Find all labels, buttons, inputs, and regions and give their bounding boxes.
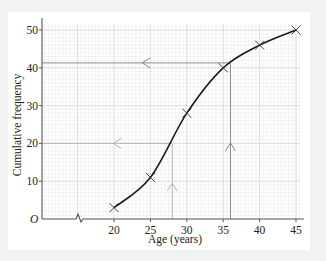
y-tick-label: 20 xyxy=(27,137,39,149)
x-tick-label: 35 xyxy=(217,224,229,236)
x-tick-label: 45 xyxy=(290,224,302,236)
y-tick-label: 50 xyxy=(27,24,39,36)
origin-label: O xyxy=(30,213,39,225)
y-axis-title: Cumulative frequency xyxy=(11,74,24,177)
x-axis-title: Age (years) xyxy=(148,233,202,246)
x-tick-label: 40 xyxy=(254,224,266,236)
x-axis-ticks: 202530354045 xyxy=(108,219,302,236)
x-tick-label: 20 xyxy=(108,224,120,236)
y-tick-label: 10 xyxy=(27,175,39,187)
grid xyxy=(42,24,300,219)
cumulative-frequency-chart: 202530354045 1020304050 O Age (years) Cu… xyxy=(0,0,326,261)
y-tick-label: 30 xyxy=(27,100,39,112)
reading-lines xyxy=(42,58,235,219)
y-tick-label: 40 xyxy=(27,62,39,74)
y-axis-ticks: 1020304050 xyxy=(27,24,43,187)
